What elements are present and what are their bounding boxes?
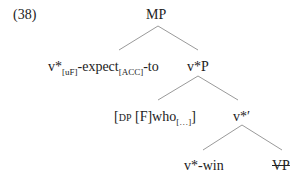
tree-branches [0, 0, 306, 175]
infinitival-to: -to [143, 59, 159, 74]
bracket-close: ] [191, 109, 196, 124]
who-subscript: […] [176, 117, 191, 127]
node-vstar-bar: v*′ [233, 109, 250, 125]
branch-mp-right [158, 26, 198, 50]
branch-mp-left [119, 26, 158, 50]
example-number: (38) [13, 7, 36, 23]
feature-subscript: [uF] [62, 67, 78, 77]
branch-vbar-right [242, 125, 282, 150]
node-vstar-p: v*P [187, 59, 209, 75]
who-feature: [F]who [131, 109, 176, 124]
node-head: v* [48, 59, 62, 74]
verb-expect: -expect [78, 59, 119, 74]
branch-vp-left [158, 76, 198, 100]
node-v-expect-to: v*[uF]-expect[ACC]-to [48, 59, 159, 76]
branch-vp-right [198, 76, 238, 100]
node-vp-deleted: VP [272, 158, 290, 174]
node-dp-who: [DP [F]who[…]] [114, 109, 196, 126]
branch-vbar-left [203, 125, 242, 150]
case-subscript: [ACC] [119, 67, 144, 77]
node-vstar-win: v*-win [184, 158, 224, 174]
dp-label: DP [119, 112, 132, 123]
node-mp: MP [146, 7, 166, 23]
